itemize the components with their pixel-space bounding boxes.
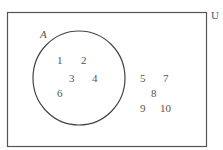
element-7: 7 — [163, 72, 169, 84]
element-3: 3 — [69, 72, 75, 84]
universe-rectangle — [8, 13, 207, 147]
set-a-label: A — [39, 28, 47, 40]
element-10: 10 — [160, 102, 172, 114]
universe-label: U — [211, 9, 219, 21]
element-4: 4 — [92, 72, 98, 84]
set-a-circle — [33, 31, 125, 125]
element-5: 5 — [140, 72, 146, 84]
element-2: 2 — [81, 54, 87, 66]
element-6: 6 — [57, 87, 63, 99]
element-1: 1 — [57, 54, 63, 66]
element-8: 8 — [151, 87, 157, 99]
element-9: 9 — [140, 102, 146, 114]
venn-diagram: U A 1 2 3 4 6 5 7 8 9 10 — [0, 0, 223, 150]
